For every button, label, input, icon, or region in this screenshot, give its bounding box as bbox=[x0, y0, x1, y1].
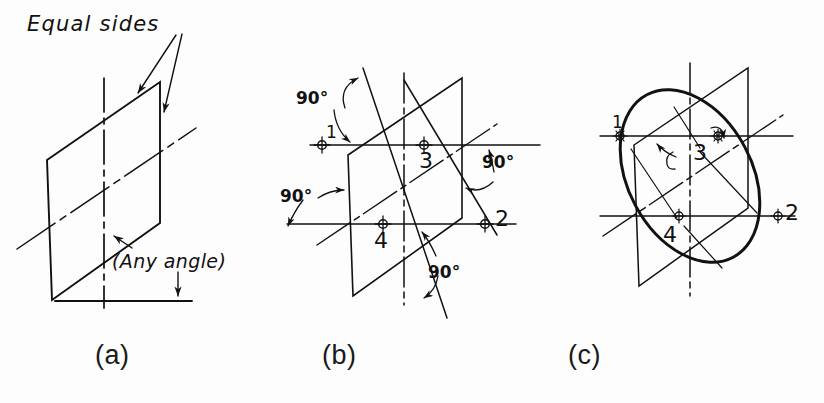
point-label-2-panel-b: 2 bbox=[495, 206, 509, 231]
center-line-inclined-b bbox=[317, 124, 497, 245]
point-label-4-panel-c: 4 bbox=[663, 222, 677, 247]
point-label-3-panel-c: 3 bbox=[693, 140, 707, 165]
angle-arc-bottom-upper-b bbox=[422, 232, 436, 256]
any-angle-label: (Any angle) bbox=[112, 250, 226, 272]
caption-panel-a: (a) bbox=[95, 340, 130, 371]
point-label-2-panel-c: 2 bbox=[785, 200, 799, 225]
angle-label-top-left: 90° bbox=[296, 88, 328, 108]
equal-sides-label: Equal sides bbox=[27, 12, 159, 36]
angle-arc-right-lower-b bbox=[466, 182, 493, 190]
center-line-inclined-a bbox=[17, 128, 196, 249]
angle-arc-top-left-upper-b bbox=[343, 78, 358, 108]
angle-label-bottom: 90° bbox=[428, 262, 460, 282]
leader-equal-sides-right bbox=[164, 34, 182, 112]
figure-page: Equal sides (Any angle) 90° 90° 90° 90° … bbox=[0, 0, 824, 403]
angle-label-right: 90° bbox=[482, 152, 514, 172]
point-label-1-panel-b: 1 bbox=[326, 122, 337, 142]
angle-label-mid-left: 90° bbox=[280, 186, 312, 206]
caption-panel-c: (c) bbox=[568, 340, 601, 371]
point-label-4-panel-b: 4 bbox=[374, 228, 388, 253]
point-label-1-panel-c: 1 bbox=[612, 112, 623, 132]
angle-arc-mid-left-upper-b bbox=[318, 190, 344, 198]
caption-panel-b: (b) bbox=[322, 340, 357, 371]
tangent-arrow-left-c bbox=[657, 144, 676, 157]
leader-any-angle-upper bbox=[114, 236, 132, 248]
point-label-3-panel-b: 3 bbox=[419, 148, 433, 173]
